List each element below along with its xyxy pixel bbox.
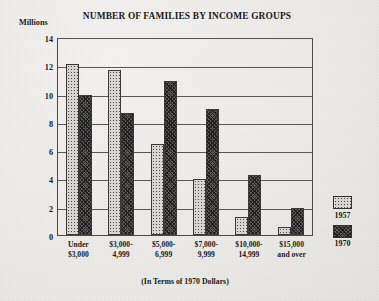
chart-title: NUMBER OF FAMILIES BY INCOME GROUPS bbox=[62, 11, 312, 21]
x-axis-category-labels: Under$3,000$3,000-4,999$5,000-6,999$7,00… bbox=[57, 240, 313, 259]
bar-1970 bbox=[79, 95, 92, 235]
category-label-line: and over bbox=[272, 250, 312, 260]
y-axis-tick-label: 4 bbox=[49, 176, 53, 185]
category-label-line: $15,000 bbox=[272, 240, 312, 250]
legend-item-1957: 1957 bbox=[333, 196, 352, 220]
x-axis-category-label: Under$3,000 bbox=[58, 240, 98, 259]
x-axis-category-label: $7,000-9,999 bbox=[186, 240, 226, 259]
y-axis-tick-label: 6 bbox=[49, 148, 53, 157]
category-label-line: 4,999 bbox=[101, 250, 141, 260]
bar-group bbox=[235, 39, 261, 235]
bar-1957 bbox=[278, 227, 291, 235]
category-label-line: $3,000- bbox=[101, 240, 141, 250]
x-axis-category-label: $5,000-6,999 bbox=[144, 240, 184, 259]
x-axis-category-label: $3,000-4,999 bbox=[101, 240, 141, 259]
bar-1957 bbox=[66, 64, 79, 235]
bar-group bbox=[108, 39, 134, 235]
bar-group bbox=[66, 39, 92, 235]
y-axis-tick-label: 10 bbox=[45, 91, 53, 100]
legend: 19571970 bbox=[333, 196, 352, 248]
y-axis-tick-label: 8 bbox=[49, 119, 53, 128]
legend-swatch-1957 bbox=[333, 196, 352, 209]
category-label-line: $3,000 bbox=[58, 250, 98, 260]
bar-1970 bbox=[248, 175, 261, 235]
legend-label: 1970 bbox=[335, 239, 351, 248]
category-label-line: 6,999 bbox=[144, 250, 184, 260]
x-axis-category-label: $15,000and over bbox=[272, 240, 312, 259]
bar-groups bbox=[58, 39, 312, 235]
bar-1970 bbox=[206, 109, 219, 235]
chart-subtitle: (In Terms of 1970 Dollars) bbox=[57, 277, 313, 286]
category-label-line: $10,000- bbox=[229, 240, 269, 250]
bar-1957 bbox=[193, 179, 206, 235]
category-label-line: Under bbox=[58, 240, 98, 250]
category-label-line: $5,000- bbox=[144, 240, 184, 250]
y-axis-unit-label: Millions bbox=[19, 18, 48, 27]
legend-label: 1957 bbox=[335, 211, 351, 220]
bar-group bbox=[193, 39, 219, 235]
bar-1970 bbox=[164, 81, 177, 235]
bar-1970 bbox=[121, 113, 134, 235]
bar-group bbox=[278, 39, 304, 235]
category-label-line: 9,999 bbox=[186, 250, 226, 260]
category-label-line: $7,000- bbox=[186, 240, 226, 250]
legend-swatch-1970 bbox=[333, 225, 352, 238]
bar-1970 bbox=[291, 208, 304, 235]
bar-group bbox=[151, 39, 177, 235]
plot-area: 14121086420 bbox=[57, 38, 313, 236]
category-label-line: 14,999 bbox=[229, 250, 269, 260]
bar-1957 bbox=[151, 144, 164, 235]
x-axis-category-label: $10,000-14,999 bbox=[229, 240, 269, 259]
bar-1957 bbox=[108, 70, 121, 235]
y-axis-tick-label: 14 bbox=[45, 35, 53, 44]
bar-1957 bbox=[235, 217, 248, 235]
legend-item-1970: 1970 bbox=[333, 225, 352, 249]
y-axis-tick-label: 2 bbox=[49, 204, 53, 213]
y-axis-tick-label: 0 bbox=[49, 233, 53, 242]
y-axis-tick-label: 12 bbox=[45, 63, 53, 72]
